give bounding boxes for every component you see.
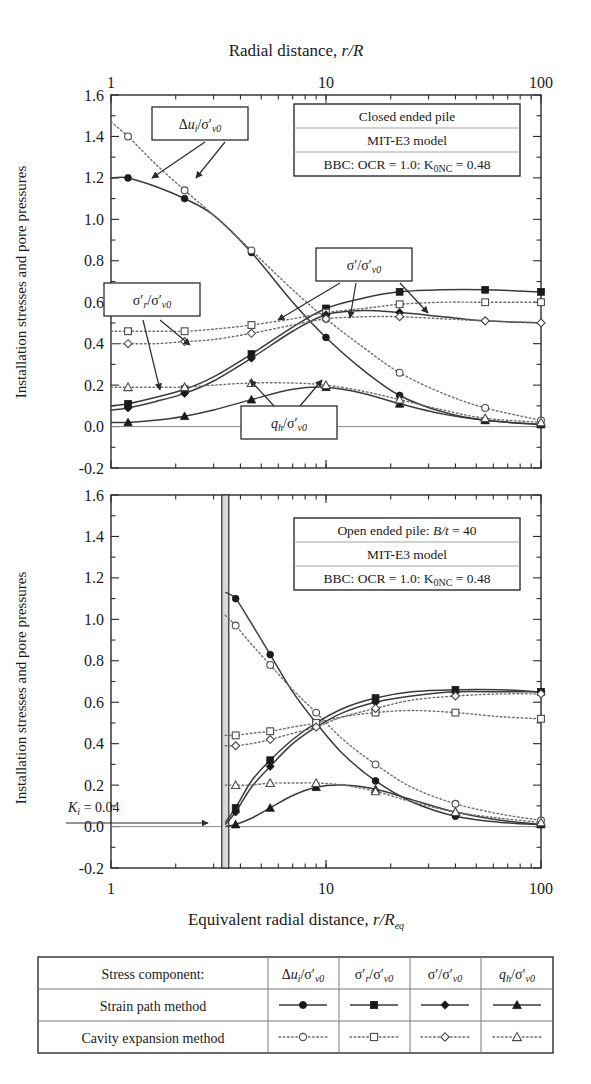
data-point-marker	[482, 299, 489, 306]
panel2-ytick-1.4: 1.4	[84, 528, 104, 545]
panel1-ytick-0.8: 0.8	[84, 252, 104, 269]
data-point-marker	[266, 804, 274, 812]
panel2-ytick-0.6: 0.6	[84, 694, 104, 711]
legend-marker-open	[370, 1033, 377, 1040]
figure-root: Radial distance, r/R Installation stress…	[0, 0, 591, 1084]
top-axis-title: Radial distance, r/R	[229, 41, 364, 60]
data-point-marker	[481, 317, 489, 325]
data-point-marker	[452, 800, 459, 807]
panel1-ytick-0.4: 0.4	[84, 335, 104, 352]
legend-marker-open	[441, 1033, 449, 1041]
panel1-ytick-0.6: 0.6	[84, 294, 104, 311]
data-point-marker	[538, 715, 545, 722]
panel2-curves	[225, 592, 545, 827]
legend-marker-filled	[370, 1001, 377, 1008]
series-line	[111, 310, 541, 410]
data-point-marker	[125, 133, 132, 140]
panel1-xtick-1: 1	[107, 74, 115, 91]
panel1-xtick-10: 10	[318, 74, 334, 91]
panel2-ytick-1.0: 1.0	[84, 611, 104, 628]
data-point-marker	[232, 622, 239, 629]
data-point-marker	[232, 732, 239, 739]
panel2-xtick-100: 100	[529, 880, 553, 897]
panel2-ytick-0.2: 0.2	[84, 777, 104, 794]
panel2-ytick-1.2: 1.2	[84, 569, 104, 586]
panel2-ytick--0.2: -0.2	[79, 860, 104, 877]
panel1-ytick-1.0: 1.0	[84, 211, 104, 228]
data-point-marker	[372, 778, 379, 785]
data-point-marker	[247, 329, 255, 337]
data-point-marker	[125, 328, 132, 335]
data-point-marker	[124, 340, 132, 348]
data-point-marker	[322, 381, 330, 389]
data-point-marker	[248, 322, 255, 329]
pile-wall-bar	[222, 495, 229, 868]
series-line	[225, 615, 541, 820]
annotation-ki-label: Ki = 0.04	[67, 800, 120, 817]
data-point-marker	[537, 319, 545, 327]
data-point-marker	[181, 187, 188, 194]
panel2-ytick-0.0: 0.0	[84, 818, 104, 835]
data-point-marker	[482, 286, 489, 293]
legend-row-header: Stress component:	[101, 967, 204, 982]
y-axis-title-panel2: Installation stresses and pore pressures	[13, 572, 29, 805]
panel1-info-line2: MIT-E3 model	[367, 133, 447, 148]
data-point-marker	[125, 174, 132, 181]
legend-table: Stress component: Strain path method Cav…	[38, 957, 553, 1053]
data-point-marker	[452, 709, 459, 716]
panel2-xtick-1: 1	[107, 880, 115, 897]
data-point-marker	[482, 405, 489, 412]
figure-svg: Radial distance, r/R Installation stress…	[0, 0, 591, 1084]
data-point-marker	[267, 662, 274, 669]
panel1-info-line1: Closed ended pile	[359, 109, 456, 124]
legend-row-label-strain-path: Strain path method	[100, 999, 207, 1014]
panel1-xtick-100: 100	[529, 74, 553, 91]
data-point-marker	[267, 651, 274, 658]
panel1-ytick-1.6: 1.6	[84, 87, 104, 104]
panel1-ytick-1.4: 1.4	[84, 128, 104, 145]
legend-marker-filled	[441, 1001, 449, 1009]
data-point-marker	[232, 742, 240, 750]
data-point-marker	[323, 334, 330, 341]
data-point-marker	[396, 288, 403, 295]
series-line	[225, 785, 541, 827]
data-point-marker	[232, 595, 239, 602]
panel2-info-line2: MIT-E3 model	[367, 547, 447, 562]
series-line	[225, 783, 541, 823]
panel1-info-line3: BBC: OCR = 1.0: K0NC = 0.48	[324, 157, 491, 174]
panel2-xtick-10: 10	[318, 880, 334, 897]
panel2-info-box: Open ended pile: B/t = 40 MIT-E3 model B…	[294, 518, 520, 590]
panel2-ytick-0.4: 0.4	[84, 735, 104, 752]
data-point-marker	[396, 369, 403, 376]
legend-row-label-cavity-expansion: Cavity expansion method	[81, 1031, 224, 1046]
panel2-ytick-0.8: 0.8	[84, 652, 104, 669]
panel2-ytick-1.6: 1.6	[84, 487, 104, 504]
y-axis-title-panel1: Installation stresses and pore pressures	[13, 166, 29, 399]
panel1-ytick-1.2: 1.2	[84, 169, 104, 186]
annotation-delta-ui: Δui/σ′v0	[152, 107, 248, 178]
panel1-info-box: Closed ended pile MIT-E3 model BBC: OCR …	[294, 104, 520, 176]
panel-open-ended-pile: 1.6 1.4 1.2 1.0 0.8 0.6 0.4 0.2 0.0 -0.2…	[66, 487, 553, 897]
panel1-ytick-0.0: 0.0	[84, 418, 104, 435]
bottom-axis-title: Equivalent radial distance, r/Req	[188, 910, 404, 931]
data-point-marker	[267, 728, 274, 735]
data-point-marker	[181, 328, 188, 335]
annotation-sigma-r: σ′r/σ′v0	[104, 283, 200, 390]
data-point-marker	[538, 288, 545, 295]
data-point-marker	[372, 761, 379, 768]
legend-col-header-qh: qh/σ′v0	[499, 967, 535, 984]
data-point-marker	[396, 301, 403, 308]
panel1-ytick-0.2: 0.2	[84, 377, 104, 394]
legend-col-header-sigma: σ′/σ′v0	[428, 967, 463, 984]
legend-col-header-dui: Δui/σ′v0	[282, 967, 325, 984]
data-point-marker	[313, 709, 320, 716]
data-point-marker	[538, 299, 545, 306]
data-point-marker	[248, 247, 255, 254]
legend-marker-filled	[299, 1001, 306, 1008]
legend-col-header-sigma-r: σ′r/σ′v0	[355, 967, 393, 984]
panel2-info-line1: Open ended pile: B/t = 40	[337, 523, 476, 538]
series-line	[225, 592, 541, 824]
panel2-info-line3: BBC: OCR = 1.0: K0NC = 0.48	[324, 571, 491, 588]
data-point-marker	[266, 736, 274, 744]
data-point-marker	[181, 195, 188, 202]
